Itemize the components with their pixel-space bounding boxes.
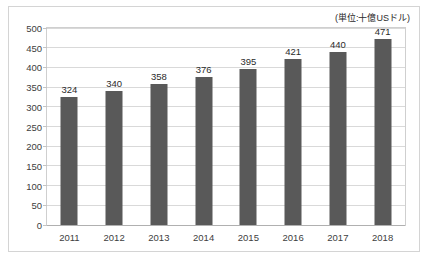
x-tick-label: 2018: [372, 232, 393, 243]
chart-container: (単位:十億USドル) 0501001502002503003504004505…: [8, 6, 420, 252]
x-tick-slot: 2012: [92, 28, 137, 225]
y-tick-label: 350: [26, 82, 42, 93]
x-tick-label: 2017: [327, 232, 348, 243]
x-tick-slot: 2011: [47, 28, 92, 225]
x-tick-slot: 2014: [181, 28, 226, 225]
x-tick-slot: 2017: [316, 28, 361, 225]
x-tick-slot: 2018: [360, 28, 405, 225]
y-tick-label: 450: [26, 42, 42, 53]
plot-area: 050100150200250300350400450500 324340358…: [46, 27, 406, 226]
y-tick-label: 250: [26, 121, 42, 132]
y-tick-label: 500: [26, 23, 42, 34]
y-tick-label: 100: [26, 180, 42, 191]
x-tick-slot: 2016: [271, 28, 316, 225]
y-tick-label: 0: [37, 220, 42, 231]
x-tick-slot: 2015: [226, 28, 271, 225]
y-tick-label: 300: [26, 101, 42, 112]
x-tick-label: 2015: [238, 232, 259, 243]
x-tick-label: 2016: [283, 232, 304, 243]
x-tick-label: 2014: [193, 232, 214, 243]
x-tick-label: 2013: [148, 232, 169, 243]
y-tick-label: 150: [26, 160, 42, 171]
y-tick-label: 400: [26, 62, 42, 73]
y-tick-label: 200: [26, 141, 42, 152]
x-tick-label: 2011: [59, 232, 79, 243]
x-tick-slot: 2013: [137, 28, 182, 225]
unit-annotation: (単位:十億USドル): [335, 11, 410, 24]
x-tick-label: 2012: [104, 232, 125, 243]
y-tick-label: 50: [31, 200, 42, 211]
